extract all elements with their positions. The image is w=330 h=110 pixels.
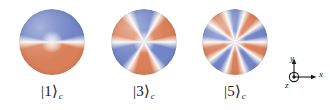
sphere-cat-state-1 [19,9,85,75]
sphere-label-subscript: c [59,91,63,101]
sphere-group-2: |3⟩c [109,9,179,101]
z-axis-label: z [285,81,289,90]
sphere-cat-state-5 [202,9,268,75]
sphere-label-ket: |5⟩ [224,83,241,99]
z-axis-dot-icon [292,75,295,78]
sphere-label-1: |1⟩c [17,84,87,101]
sphere-label-5: |5⟩c [200,84,270,101]
sphere-label-3: |3⟩c [109,84,179,101]
sphere-label-ket: |1⟩ [41,83,58,99]
sphere-label-subscript: c [242,91,246,101]
sphere-cat-state-3 [111,9,177,75]
sphere-wedges [19,9,85,75]
sphere-label-subscript: c [151,91,155,101]
coordinate-triad: y x z [283,54,329,100]
sphere-group-3: |5⟩c [200,9,270,101]
sphere-wedges [202,9,268,75]
sphere-label-ket: |3⟩ [133,83,150,99]
y-axis-label: y [290,54,294,63]
quantum-cat-state-figure: |1⟩c |3⟩c |5⟩c [0,0,330,110]
sphere-wedges [111,9,177,75]
x-axis-arrowhead [311,75,317,80]
x-axis-label: x [319,70,323,79]
sphere-group-1: |1⟩c [17,9,87,101]
